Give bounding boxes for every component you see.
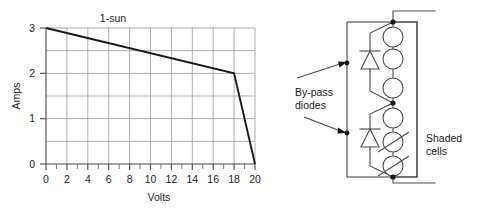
x-tick-label-2: 2 — [64, 173, 70, 185]
terminal-bottom-lead — [393, 177, 435, 183]
y-tick-label-1: 1 — [29, 112, 35, 124]
bypass-diodes-leader-lower — [304, 117, 343, 132]
pv-module-circuit-diagram: By-pass diodes Shaded cells — [290, 0, 479, 209]
y-axis-title: Amps — [10, 83, 22, 110]
terminal-top-lead — [393, 11, 435, 22]
x-tick-label-6: 6 — [106, 173, 112, 185]
x-tick-label-10: 10 — [145, 173, 157, 185]
x-tick-label-4: 4 — [85, 173, 91, 185]
bypass-diodes-label-line2: diodes — [295, 99, 326, 111]
x-tick-label-8: 8 — [127, 173, 133, 185]
x-tick-label-16: 16 — [207, 173, 219, 185]
chart-title: 1-sun — [100, 12, 126, 24]
shaded-cells-label-line1: Shaded — [426, 132, 462, 144]
x-tick-label-12: 12 — [166, 173, 178, 185]
x-tick-label-0: 0 — [43, 173, 49, 185]
y-tick-label-3: 3 — [29, 22, 35, 34]
y-tick-label-0: 0 — [29, 158, 35, 170]
bypass-diodes-anchor-upper-dot — [345, 61, 350, 66]
x-tick-label-20: 20 — [249, 173, 261, 185]
shaded-cells-label-line2: cells — [426, 145, 447, 157]
pv-cell-1 — [383, 27, 403, 47]
y-tick-label-2: 2 — [29, 67, 35, 79]
pv-cell-2 — [383, 49, 403, 69]
diode-lower-anode-triangle — [361, 129, 379, 147]
pv-cell-3 — [383, 78, 403, 98]
x-tick-label-18: 18 — [228, 173, 240, 185]
x-axis-title: Volts — [148, 191, 171, 203]
x-tick-label-14: 14 — [186, 173, 198, 185]
chart-y-ticks — [40, 28, 46, 164]
iv-curve-chart: 3 2 1 0 0 2 4 6 8 10 12 14 16 18 20 Volt… — [0, 0, 300, 209]
module-outline-box — [347, 22, 417, 177]
bypass-diodes-anchor-lower-dot — [345, 131, 350, 136]
node-mid-dot — [390, 100, 395, 105]
node-bottom-dot — [390, 174, 395, 179]
pv-cell-4 — [383, 108, 403, 128]
bypass-diodes-label-line1: By-pass — [295, 86, 333, 98]
diode-upper-anode-triangle — [361, 51, 379, 69]
node-top-dot — [390, 19, 395, 24]
figure-root: 3 2 1 0 0 2 4 6 8 10 12 14 16 18 20 Volt… — [0, 0, 479, 209]
bypass-diodes-leader-upper — [297, 63, 343, 78]
